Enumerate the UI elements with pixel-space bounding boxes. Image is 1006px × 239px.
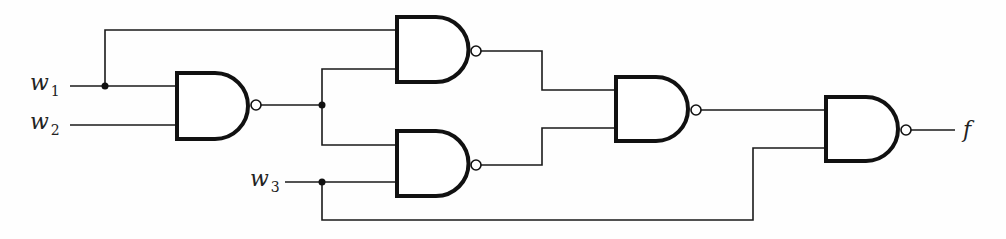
junction-dot-w3 [319,179,326,186]
wire-g1-to-g2-g3 [322,69,397,145]
inverter-bubble-icon [471,160,481,170]
nand-gate-g4 [616,77,701,141]
input-label-w1: w1 [30,72,60,98]
output-label-f: f [963,119,971,141]
inverter-bubble-icon [691,105,701,115]
nand-gate-g3 [397,131,481,196]
circuit-svg [0,0,1006,239]
label-subscript: 2 [51,122,60,138]
logic-circuit-diagram: w1 w2 w3 f [0,0,1006,239]
junction-dot-w1 [102,83,109,90]
inverter-bubble-icon [251,100,261,110]
wire-w1-to-g2 [105,30,397,86]
label-subscript: 1 [51,83,60,99]
label-text: f [963,117,971,142]
wire-g2-to-g4 [481,51,616,90]
label-text: w [250,166,269,191]
label-text: w [30,70,49,95]
junction-dot-g1 [319,102,326,109]
label-subscript: 3 [271,179,280,195]
inverter-bubble-icon [901,125,911,135]
wire-g3-to-g4 [481,128,616,165]
nand-gate-g2 [397,17,481,82]
input-label-w3: w3 [250,168,280,194]
inverter-bubble-icon [471,46,481,56]
label-text: w [30,109,49,134]
nand-gate-g5 [826,97,911,161]
nand-gate-g1 [177,73,261,139]
input-label-w2: w2 [30,111,60,137]
